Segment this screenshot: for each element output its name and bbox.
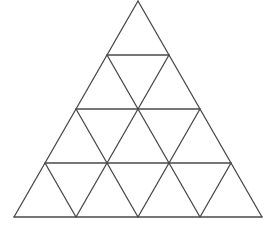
left-parallel-edge bbox=[76, 55, 169, 217]
left-parallel-edge bbox=[200, 163, 231, 217]
triangle-diagram bbox=[0, 0, 270, 227]
right-parallel-edge bbox=[107, 55, 200, 217]
right-parallel-edge bbox=[45, 163, 76, 217]
